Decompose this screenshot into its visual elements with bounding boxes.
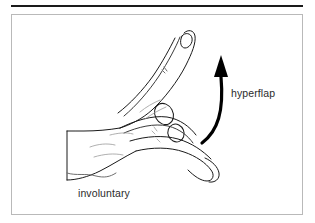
- knuckle-upper: [151, 100, 177, 128]
- label-involuntary: involuntary: [78, 187, 130, 199]
- hand-illustration: [12, 15, 304, 216]
- palm-crease-1: [90, 144, 115, 147]
- top-horizontal-rule: [11, 5, 303, 7]
- palm-crease-3: [110, 133, 133, 135]
- hand-hatching: [152, 127, 160, 142]
- figure-page: hyperflap involuntary: [0, 0, 315, 223]
- palm-crease-2: [94, 154, 123, 157]
- hand-upper-outline: [67, 128, 120, 131]
- label-hyperflap: hyperflap: [231, 87, 275, 99]
- finger-inner-edge: [118, 38, 175, 113]
- middle-finger-top: [120, 117, 196, 135]
- fingernail: [181, 34, 193, 48]
- arrowhead: [214, 55, 228, 77]
- thumb-lower-edge: [136, 148, 213, 181]
- wrist-wave-line: [67, 173, 116, 177]
- finger-outer-edge: [120, 31, 195, 128]
- figure-frame: hyperflap involuntary: [11, 14, 303, 215]
- hyperflap-arrow: [202, 55, 228, 143]
- thumb-upper-edge: [130, 137, 211, 159]
